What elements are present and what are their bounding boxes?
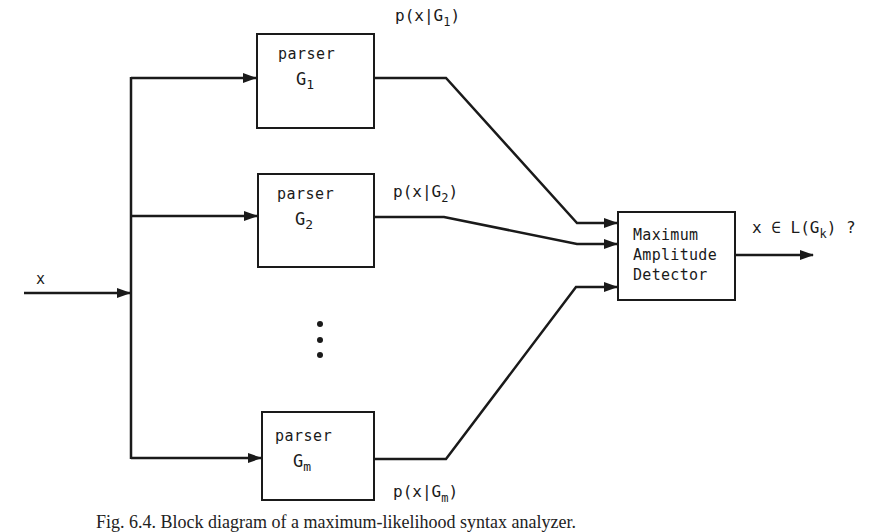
connection-wires: [0, 0, 888, 532]
max-amplitude-detector-box: Maximum Amplitude Detector: [617, 211, 736, 301]
decision-output-label: x ∈ L(Gk) ?: [752, 218, 856, 237]
parser-g2-label: parser: [277, 185, 334, 203]
prob-gm-label: p(x|Gm): [393, 482, 458, 501]
parser-g1-grammar: G1: [296, 69, 314, 89]
figure-caption: Fig. 6.4. Block diagram of a maximum-lik…: [96, 512, 576, 532]
ellipsis-dot: [317, 337, 323, 343]
gm-output-wire: [374, 287, 617, 459]
parser-gm-grammar: Gm: [293, 451, 311, 471]
ellipsis-dot: [317, 352, 323, 358]
detector-line-1: Maximum: [633, 225, 717, 245]
parser-g1-box: parser G1: [256, 33, 375, 129]
prob-g1-label: p(x|G1): [395, 6, 460, 25]
block-diagram: x parser G1 p(x|G1) parser G2 p(x|G2) pa…: [0, 0, 888, 532]
parser-g2-box: parser G2: [257, 173, 375, 268]
parser-g2-grammar: G2: [295, 209, 313, 229]
ellipsis-dot: [317, 321, 323, 327]
prob-g2-label: p(x|G2): [393, 182, 458, 201]
input-label: x: [36, 270, 45, 288]
parser-gm-label: parser: [275, 427, 332, 445]
detector-line-3: Detector: [633, 265, 717, 285]
parser-g1-label: parser: [278, 45, 335, 63]
detector-line-2: Amplitude: [633, 245, 717, 265]
detector-label: Maximum Amplitude Detector: [633, 225, 717, 285]
g2-output-wire: [374, 217, 617, 244]
g1-output-wire: [374, 78, 617, 223]
parser-gm-box: parser Gm: [261, 411, 375, 501]
